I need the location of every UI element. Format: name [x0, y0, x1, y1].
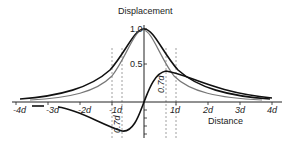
x-tick-label: -4d — [13, 105, 27, 115]
x-tick-label: -2d — [78, 105, 92, 115]
x-tick-label: 1d — [170, 105, 181, 115]
x-tick-label: 4d — [267, 105, 278, 115]
annotation-0-7d-right: 0.7d — [156, 74, 166, 93]
x-axis-label: Distance — [208, 116, 243, 126]
x-tick-label: 3d — [235, 105, 246, 115]
y-axis-label: Displacement — [118, 6, 173, 16]
x-tick-label: -1d — [109, 105, 123, 115]
annotation-0-7d-left: 0.7d — [112, 114, 122, 133]
y-tick-label: 1.0 — [130, 24, 143, 34]
x-tick-label: -3d — [46, 105, 60, 115]
y-tick-label: 0.5 — [130, 59, 143, 69]
displacement-diagram: Displacement Distance 1.0 0.5 -4d -3d -2… — [0, 0, 289, 146]
x-tick-label: 2d — [202, 105, 214, 115]
